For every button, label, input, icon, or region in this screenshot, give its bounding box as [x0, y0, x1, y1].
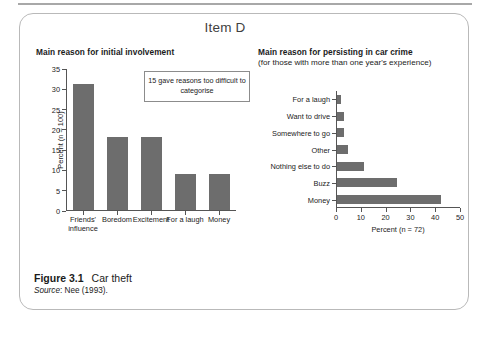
- left-chart-y-tick-label: 25: [52, 105, 60, 114]
- right-chart-y-tick-label: Money: [308, 195, 330, 204]
- figure-source-line: Source: Nee (1993).: [34, 286, 132, 295]
- right-chart-bar: [337, 195, 441, 204]
- right-chart-y-tick: [332, 183, 336, 184]
- right-chart-plot-area: Percent (n = 72) 01020304050For a laughW…: [336, 91, 460, 208]
- left-chart-y-axis: [66, 69, 67, 211]
- right-chart-x-tick-label: 40: [431, 213, 439, 222]
- right-chart-y-tick: [332, 166, 336, 167]
- left-chart-y-tick: [62, 150, 66, 151]
- right-chart-x-tick-label: 30: [406, 213, 414, 222]
- left-chart-bar: [73, 84, 94, 210]
- left-chart-y-tick-label: 10: [52, 166, 60, 175]
- left-chart-y-tick: [62, 89, 66, 90]
- right-chart-x-tick-label: 50: [456, 213, 464, 222]
- left-chart-bar: [141, 137, 162, 210]
- left-chart-y-tick: [62, 170, 66, 171]
- right-chart-x-tick-label: 0: [334, 213, 338, 222]
- right-chart-y-tick: [332, 99, 336, 100]
- right-chart-x-tick: [435, 208, 436, 212]
- left-chart-title: Main reason for initial involvement: [36, 47, 251, 57]
- left-chart-y-tick-label: 35: [52, 65, 60, 74]
- right-chart-x-tick: [386, 208, 387, 212]
- top-divider: [18, 3, 472, 5]
- figure-number: Figure 3.1: [34, 272, 84, 284]
- right-chart-y-tick: [332, 200, 336, 201]
- left-chart-y-tick-label: 15: [52, 146, 60, 155]
- item-title: Item D: [0, 20, 450, 35]
- left-chart-bar: [175, 174, 196, 211]
- right-chart-y-tick-label: Other: [312, 145, 330, 154]
- right-chart-x-tick-label: 20: [381, 213, 389, 222]
- right-chart-x-tick: [410, 208, 411, 212]
- right-chart-y-tick-label: Somewhere to go: [272, 128, 330, 137]
- left-chart-y-tick: [62, 190, 66, 191]
- left-chart-y-tick: [62, 211, 66, 212]
- left-chart-y-tick-label: 30: [52, 85, 60, 94]
- right-chart-bar: [337, 145, 348, 154]
- right-chart-bar: [337, 162, 364, 171]
- right-chart-y-tick-label: For a laugh: [293, 95, 330, 104]
- right-chart-y-tick-label: Nothing else to do: [270, 162, 330, 171]
- left-chart-y-tick: [62, 129, 66, 130]
- right-chart-bar: [337, 95, 341, 104]
- left-chart-x-tick-label: Money: [195, 215, 243, 224]
- right-chart-y-tick-label: Buzz: [314, 178, 330, 187]
- right-chart-title: Main reason for persisting in car crime: [258, 47, 473, 57]
- left-chart-bar: [209, 174, 230, 211]
- right-chart-x-tick-label: 10: [357, 213, 365, 222]
- right-chart-x-axis-label: Percent (n = 72): [371, 225, 424, 234]
- left-chart-annotation-box: 15 gave reasons too difficult to categor…: [144, 71, 250, 102]
- right-chart-x-tick: [460, 208, 461, 212]
- figure-page: Item D Main reason for initial involveme…: [0, 0, 490, 339]
- right-chart-x-tick: [336, 208, 337, 212]
- right-chart-y-tick: [332, 133, 336, 134]
- left-chart-bar: [107, 137, 128, 210]
- left-chart-y-tick-label: 20: [52, 125, 60, 134]
- right-chart-bar: [337, 128, 344, 137]
- figure-title: Car theft: [92, 272, 132, 284]
- left-chart-y-tick-label: 5: [56, 186, 60, 195]
- right-chart-bar: [337, 178, 397, 187]
- right-chart-x-tick: [361, 208, 362, 212]
- figure-caption-line: Figure 3.1Car theft: [34, 272, 132, 284]
- left-chart-panel: Main reason for initial involvement Perc…: [36, 47, 251, 277]
- left-chart-y-tick: [62, 69, 66, 70]
- right-chart-y-tick-label: Want to drive: [287, 112, 330, 121]
- source-text: : Nee (1993).: [60, 286, 108, 295]
- right-chart-y-tick: [332, 150, 336, 151]
- left-chart-y-axis-label: Percent (n = 100): [56, 111, 65, 168]
- right-chart-subtitle: (for those with more than one year's exp…: [258, 58, 473, 67]
- right-chart-panel: Main reason for persisting in car crime …: [258, 47, 473, 277]
- right-chart-x-axis: [336, 207, 460, 208]
- right-chart-bar: [337, 112, 344, 121]
- right-chart-y-tick: [332, 116, 336, 117]
- figure-caption: Figure 3.1Car theft Source: Nee (1993).: [34, 272, 132, 295]
- source-label: Source: [34, 286, 60, 295]
- left-chart-y-tick: [62, 109, 66, 110]
